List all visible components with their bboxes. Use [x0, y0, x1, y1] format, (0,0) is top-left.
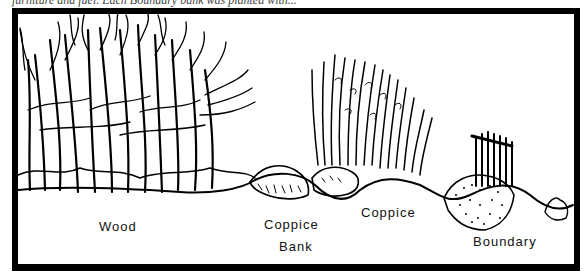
boundary-bank — [444, 175, 514, 230]
boundary-fence — [472, 132, 512, 186]
label-coppice-bank-line1: Coppice — [264, 217, 319, 232]
label-boundary: Boundary — [473, 234, 537, 249]
label-coppice: Coppice — [361, 205, 416, 220]
coppice-stems — [312, 55, 432, 175]
label-coppice-bank-line2: Bank — [279, 239, 313, 254]
wood-trees — [28, 25, 213, 192]
coppice-bank-mound — [250, 166, 358, 199]
label-wood: Wood — [99, 219, 137, 234]
wood-undergrowth — [18, 168, 255, 178]
ground-profile — [18, 174, 573, 209]
